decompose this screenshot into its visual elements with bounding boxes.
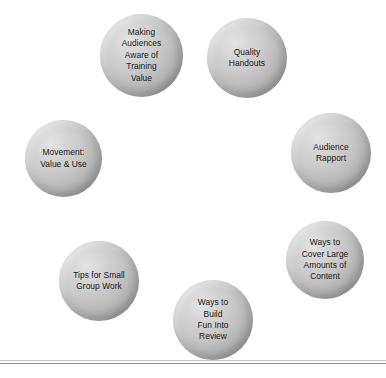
bubble-label: Ways toBuildFun IntoReview <box>192 297 233 343</box>
bubble-ways-to-cover-large-amounts-of-content[interactable]: Ways toCover LargeAmounts ofContent <box>286 221 364 299</box>
bubble-audience-rapport[interactable]: AudienceRapport <box>291 113 371 193</box>
footer-rule-thin <box>0 360 386 361</box>
bubble-label: Ways toCover LargeAmounts ofContent <box>297 237 354 283</box>
bubble-label: MakingAudiencesAware ofTrainingValue <box>117 27 167 84</box>
bubble-quality-handouts[interactable]: QualityHandouts <box>207 18 287 98</box>
bubble-movement-value-and-use[interactable]: Movement:Value & Use <box>25 120 102 197</box>
bubble-label: AudienceRapport <box>308 142 353 165</box>
bubble-label: Tips for SmallGroup Work <box>68 270 130 293</box>
footer-rule <box>0 363 386 364</box>
bubble-making-audiences-aware-of-training-value[interactable]: MakingAudiencesAware ofTrainingValue <box>100 14 183 97</box>
diagram-canvas: MakingAudiencesAware ofTrainingValue Qua… <box>0 0 386 378</box>
bubble-label: QualityHandouts <box>224 47 270 70</box>
bubble-tips-for-small-group-work[interactable]: Tips for SmallGroup Work <box>59 241 139 321</box>
bubble-label: Movement:Value & Use <box>35 147 91 170</box>
bubble-ways-to-build-fun-into-review[interactable]: Ways toBuildFun IntoReview <box>173 280 253 360</box>
